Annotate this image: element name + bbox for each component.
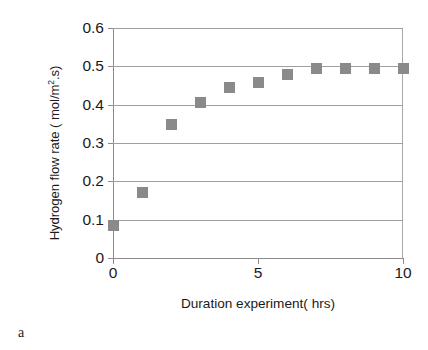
y-tick-mark — [108, 143, 113, 144]
data-point-marker — [108, 220, 119, 231]
y-tick-mark — [108, 28, 113, 29]
data-point-marker — [253, 77, 264, 88]
y-axis-title-after: .s) — [47, 66, 62, 80]
data-point-marker — [282, 69, 293, 80]
gridline — [113, 66, 403, 67]
x-axis-title: Duration experiment( hrs) — [113, 296, 403, 311]
data-point-marker — [311, 63, 322, 74]
data-point-marker — [369, 63, 380, 74]
data-point-marker — [137, 187, 148, 198]
y-axis-title-before: Hydrogen flow rate ( mol/m — [47, 85, 62, 241]
y-axis-title: Hydrogen flow rate ( mol/m2.s) — [44, 38, 66, 268]
gridline — [113, 28, 403, 29]
data-point-marker — [195, 97, 206, 108]
y-axis-title-superscript: 2 — [46, 80, 56, 85]
gridline — [113, 105, 403, 106]
gridline — [113, 220, 403, 221]
figure-container: 00.10.20.30.40.50.6 0510 Hydrogen flow r… — [0, 0, 428, 350]
x-tick-label: 5 — [238, 264, 278, 282]
y-tick-mark — [108, 66, 113, 67]
gridline — [113, 181, 403, 182]
plot-area — [113, 28, 403, 258]
data-point-marker — [398, 63, 409, 74]
y-tick-mark — [108, 105, 113, 106]
figure-caption-label: a — [18, 325, 24, 341]
data-point-marker — [340, 63, 351, 74]
data-point-marker — [166, 119, 177, 130]
y-tick-label: 0.6 — [58, 20, 104, 36]
data-point-marker — [224, 82, 235, 93]
gridline — [113, 143, 403, 144]
y-tick-mark — [108, 181, 113, 182]
x-tick-label: 0 — [93, 264, 133, 282]
x-tick-label: 10 — [383, 264, 423, 282]
